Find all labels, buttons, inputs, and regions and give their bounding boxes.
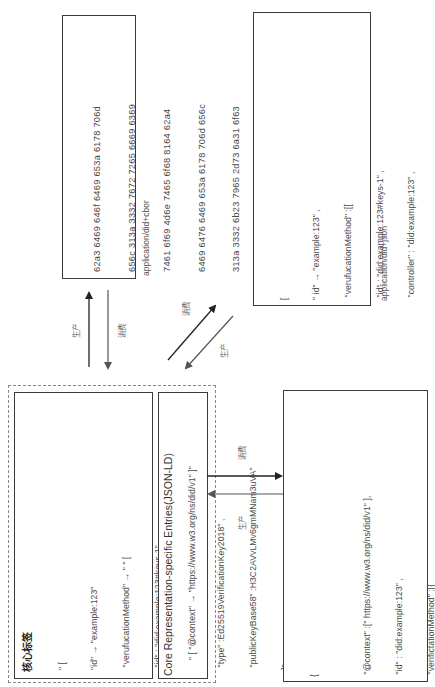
consume-label-jsonld: 消费 xyxy=(236,446,247,460)
consume-arrow-json xyxy=(168,306,215,360)
produce-label-jsonld: 生产 xyxy=(236,516,247,530)
produce-arrow-json xyxy=(186,316,233,368)
consume-label-cbor: 消费 xyxy=(116,324,127,338)
produce-label-cbor: 生产 xyxy=(70,324,81,338)
produce-label-json: 生产 xyxy=(218,344,229,358)
consume-label-json: 消费 xyxy=(180,302,191,316)
